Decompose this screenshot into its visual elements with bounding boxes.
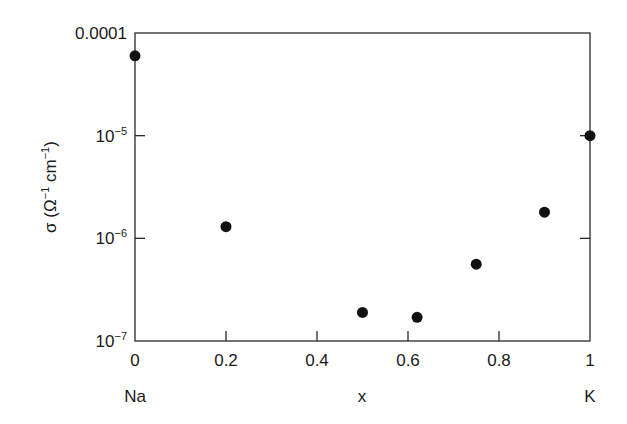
x-tick-label: 1 [585,351,594,370]
data-point [130,50,141,61]
x-tick-label: 0.8 [487,351,511,370]
data-point [412,312,423,323]
x-tick-label: 0.6 [396,351,420,370]
chart: 00.20.40.60.810.000110−510−610−7 σ (Ω−1 … [0,0,627,424]
plot-area: 00.20.40.60.810.000110−510−610−7 [75,24,596,370]
x-axis-label: x [358,387,367,406]
data-point [221,221,232,232]
x-tick-label: 0.2 [214,351,238,370]
data-point [539,207,550,218]
y-tick-label: 10−5 [96,125,127,146]
y-tick-label: 10−7 [96,330,127,351]
x-end-label-k: K [584,387,596,406]
y-axis-label: σ (Ω−1 cm−1) [39,141,60,233]
plot-frame [135,33,590,341]
data-point [585,130,596,141]
y-tick-label: 10−6 [96,227,127,248]
data-point [471,259,482,270]
x-tick-label: 0.4 [305,351,329,370]
data-point [357,307,368,318]
x-tick-label: 0 [130,351,139,370]
x-end-label-na: Na [124,387,146,406]
y-tick-label: 0.0001 [75,24,127,43]
